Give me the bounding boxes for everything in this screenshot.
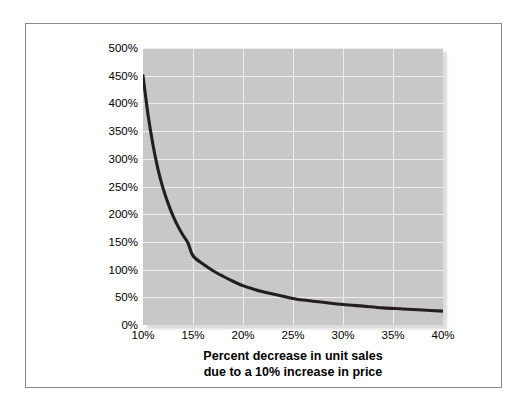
y-axis-tick-label: 350% <box>78 125 138 137</box>
y-axis-tick-label: 200% <box>78 208 138 220</box>
y-axis-tick-labels: 0%50%100%150%200%250%300%350%400%450%500… <box>75 48 138 325</box>
x-axis-title-line-1: Percent decrease in unit sales <box>203 349 382 363</box>
x-axis-tick-label: 40% <box>413 329 473 341</box>
y-axis-tick-label: 50% <box>78 291 138 303</box>
series-line-optimal-markup <box>143 48 443 325</box>
chart-container: 0%50%100%150%200%250%300%350%400%450%500… <box>0 0 526 409</box>
x-axis-tick-labels: 10%15%20%25%30%35%40% <box>143 329 443 345</box>
y-axis-tick-label: 250% <box>78 181 138 193</box>
figure-canvas: 0%50%100%150%200%250%300%350%400%450%500… <box>0 0 526 409</box>
y-axis-tick-label: 300% <box>78 153 138 165</box>
y-axis-tick-label: 500% <box>78 42 138 54</box>
y-axis-title: Optimal markup on variable cost <box>56 0 74 48</box>
y-axis-tick-label: 150% <box>78 236 138 248</box>
x-axis-title: Percent decrease in unit sales due to a … <box>143 348 443 380</box>
y-axis-tick-label: 450% <box>78 70 138 82</box>
plot-area <box>143 48 443 325</box>
y-axis-tick-label: 400% <box>78 97 138 109</box>
x-axis-title-line-2: due to a 10% increase in price <box>143 364 443 380</box>
y-axis-tick-label: 100% <box>78 264 138 276</box>
